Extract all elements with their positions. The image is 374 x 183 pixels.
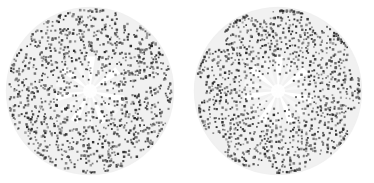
scatter-panel-left <box>0 0 187 183</box>
disk-core <box>271 84 285 98</box>
scatter-plot-left-svg <box>0 0 187 183</box>
figure-pair <box>0 0 374 183</box>
scatter-plot-right-svg <box>187 0 374 183</box>
disk-core <box>83 84 97 98</box>
scatter-panel-right <box>187 0 374 183</box>
